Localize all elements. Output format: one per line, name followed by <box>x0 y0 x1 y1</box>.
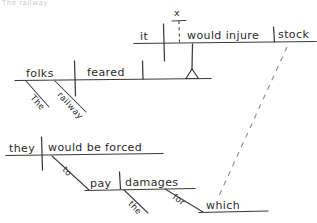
noun-clause-pedestal <box>186 44 199 79</box>
main-clause-verb-object-divider <box>143 61 144 79</box>
word-it: it <box>140 30 148 43</box>
pedestal-leg-right <box>192 69 199 79</box>
word-the-subject-modifier: The <box>28 92 47 112</box>
diagram-svg: The railway x it would injure stock <box>0 0 317 223</box>
omitted-conjunction-x-label: x <box>174 7 180 18</box>
relative-clause-subject-verb-divider <box>42 137 43 170</box>
word-stock: stock <box>278 28 309 41</box>
relative-pronoun-reference-connector <box>218 47 287 198</box>
omitted-conjunction-bar <box>172 21 186 22</box>
word-to: to <box>61 164 75 178</box>
word-would-be-forced: would be forced <box>48 141 142 154</box>
main-clause-subject-verb-divider <box>75 61 76 96</box>
infinitive-phrase-group: to pay damages the <box>52 156 195 217</box>
word-they: they <box>9 142 35 155</box>
prepositional-phrase-group: for which <box>165 189 268 213</box>
omitted-conjunction-dashed-stem <box>179 21 180 43</box>
word-feared: feared <box>87 66 125 79</box>
main-clause-group: folks feared The railway <box>15 61 211 121</box>
infinitive-verb-object-divider <box>120 172 121 189</box>
pedestal-stem <box>192 44 193 69</box>
noun-clause-verb-object-divider <box>274 27 275 42</box>
word-the-object-modifier: the <box>127 199 145 217</box>
clipped-header-text: The railway <box>1 0 48 7</box>
noun-clause-subject-verb-divider <box>164 24 165 61</box>
word-railway-modifier: railway <box>56 90 86 122</box>
sentence-diagram-canvas: The railway x it would injure stock <box>0 0 317 223</box>
relative-clause-group: they would be forced <box>6 137 163 170</box>
word-which: which <box>206 199 240 212</box>
word-pay: pay <box>90 177 112 190</box>
pedestal-leg-left <box>186 69 192 79</box>
noun-clause-group: x it would injure stock <box>134 7 316 61</box>
word-folks: folks <box>26 67 54 80</box>
clipped-header-label: The railway <box>1 0 48 7</box>
word-damages: damages <box>125 176 178 189</box>
connector-stock-to-which <box>218 47 287 198</box>
word-would-injure: would injure <box>187 29 259 42</box>
